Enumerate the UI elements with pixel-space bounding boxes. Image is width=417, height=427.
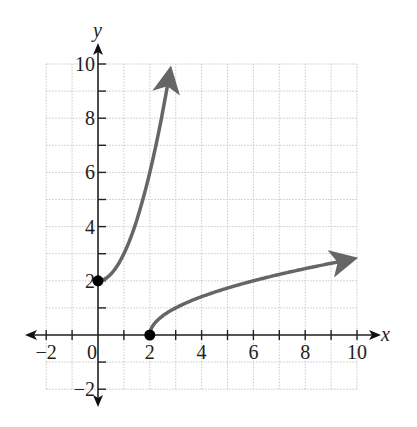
endpoint-dot xyxy=(93,275,104,286)
y-tick-label: 4 xyxy=(85,216,95,238)
endpoint-dot xyxy=(144,330,155,341)
y-tick-label: 8 xyxy=(85,107,95,129)
x-tick-label: 4 xyxy=(197,341,207,363)
x-tick-label: 8 xyxy=(300,341,310,363)
x-tick-label: −2 xyxy=(36,341,57,363)
curves xyxy=(98,76,348,335)
x-axis-label: x xyxy=(380,323,390,345)
y-tick-label: −2 xyxy=(74,378,95,400)
y-tick-label: 10 xyxy=(75,53,95,75)
x-tick-label: 10 xyxy=(347,341,367,363)
x-tick-label: 0 xyxy=(87,341,97,363)
y-tick-label: 6 xyxy=(85,161,95,183)
chart-container: −20246810−2246810 x y xyxy=(0,0,417,427)
y-axis-label: y xyxy=(91,19,102,42)
coordinate-graph: −20246810−2246810 x y xyxy=(0,0,417,427)
curve-1 xyxy=(98,76,169,281)
curve-2 xyxy=(150,260,348,335)
x-tick-label: 2 xyxy=(145,341,155,363)
x-tick-label: 6 xyxy=(248,341,258,363)
